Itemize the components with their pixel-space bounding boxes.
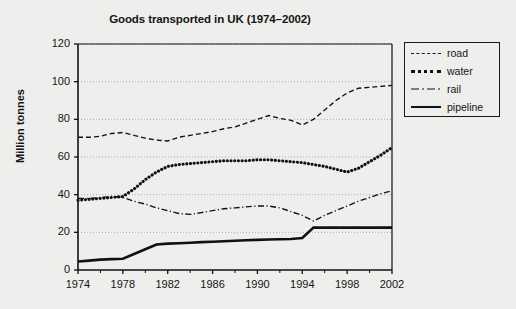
y-tick-label: 20	[32, 225, 70, 237]
legend-label-water: water	[447, 65, 473, 77]
solid-line-key	[411, 106, 441, 110]
legend-label-rail: rail	[447, 83, 461, 95]
x-tick-label: 1982	[145, 278, 191, 290]
x-tick-label: 1978	[100, 278, 146, 290]
legend-label-road: road	[447, 47, 468, 59]
legend-item-water: water	[405, 63, 501, 81]
legend-item-rail: rail	[405, 81, 501, 99]
dotted-line-key	[411, 70, 441, 75]
y-tick-label: 80	[32, 112, 70, 124]
y-tick-label: 0	[32, 263, 70, 275]
legend-label-pipeline: pipeline	[447, 101, 483, 113]
series-line-water	[78, 148, 392, 201]
x-tick-label: 1990	[234, 278, 280, 290]
y-tick-label: 40	[32, 188, 70, 200]
legend-item-road: road	[405, 45, 501, 63]
x-tick-label: 1998	[324, 278, 370, 290]
dash-dot-line-svg	[411, 85, 441, 93]
x-tick-label: 1994	[279, 278, 325, 290]
y-tick-label: 100	[32, 75, 70, 87]
x-tick-label: 1986	[190, 278, 236, 290]
y-tick-label: 120	[32, 37, 70, 49]
x-tick-label: 2002	[369, 278, 415, 290]
chart-legend: road water rail pipeline	[404, 42, 500, 117]
x-tick-label: 1974	[55, 278, 101, 290]
y-tick-label: 60	[32, 150, 70, 162]
chart-figure: Goods transported in UK (1974–2002) Mill…	[0, 0, 516, 309]
series-line-road	[78, 85, 392, 141]
legend-item-pipeline: pipeline	[405, 99, 501, 117]
dashed-line-key	[411, 53, 441, 56]
